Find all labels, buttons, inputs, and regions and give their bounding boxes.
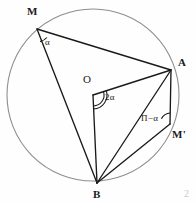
vertex-label-A: A (178, 57, 186, 68)
chord-M-A (37, 29, 171, 70)
vertex-label-M-prime: M' (172, 129, 186, 140)
corner-artifact-mark: 2 (184, 189, 189, 199)
vertex-label-B: B (93, 189, 101, 200)
geometry-figure: M A B M' O α 2α П−α 2 (0, 0, 196, 203)
chord-A-Mprime (170, 70, 171, 124)
chord-Mprime-B (97, 124, 170, 183)
angle-label-pi-minus-alpha: П−α (141, 114, 158, 123)
geometry-canvas (0, 0, 196, 203)
angle-label-two-alpha: 2α (105, 93, 115, 102)
chord-M-B (37, 29, 97, 183)
vertex-label-M: M (27, 6, 38, 17)
angle-arc-pi-minus-alpha-at-Mprime (161, 113, 170, 119)
chord-A-B (97, 70, 171, 183)
angle-label-alpha: α (45, 38, 50, 47)
center-label-O: O (83, 74, 91, 85)
